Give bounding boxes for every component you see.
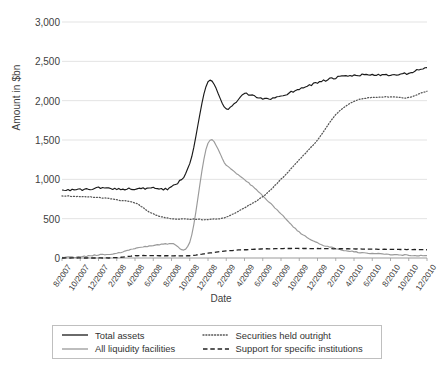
- y-tick-label: 500: [2, 213, 60, 224]
- chart-legend: Total assetsSecurities held outrightAll …: [52, 325, 382, 359]
- y-axis-ticks: 05001,0001,5002,0002,5003,000: [0, 0, 60, 367]
- legend-swatch-icon: [61, 330, 89, 340]
- y-tick-label: 1,500: [2, 135, 60, 146]
- y-tick-label: 0: [2, 253, 60, 264]
- y-tick-label: 3,000: [2, 17, 60, 28]
- y-tick-label: 1,000: [2, 174, 60, 185]
- y-tick-label: 2,000: [2, 95, 60, 106]
- legend-swatch-icon: [202, 330, 230, 340]
- series-line: [62, 91, 427, 220]
- series-line: [62, 140, 427, 258]
- legend-label: All liquidity facilities: [95, 343, 175, 354]
- legend-label: Securities held outright: [236, 330, 331, 341]
- legend-item[interactable]: Securities held outright: [202, 330, 375, 341]
- chart-container: Amount in $bn 05001,0001,5002,0002,5003,…: [0, 0, 442, 367]
- x-axis-title: Date: [0, 293, 442, 304]
- legend-item[interactable]: All liquidity facilities: [61, 343, 188, 354]
- legend-label: Total assets: [95, 330, 145, 341]
- y-tick-label: 2,500: [2, 56, 60, 67]
- legend-swatch-icon: [202, 344, 230, 354]
- legend-swatch-icon: [61, 344, 89, 354]
- legend-label: Support for specific institutions: [236, 343, 363, 354]
- legend-item[interactable]: Support for specific institutions: [202, 343, 375, 354]
- series-line: [62, 68, 427, 191]
- plot-area: [0, 0, 442, 367]
- legend-item[interactable]: Total assets: [61, 330, 188, 341]
